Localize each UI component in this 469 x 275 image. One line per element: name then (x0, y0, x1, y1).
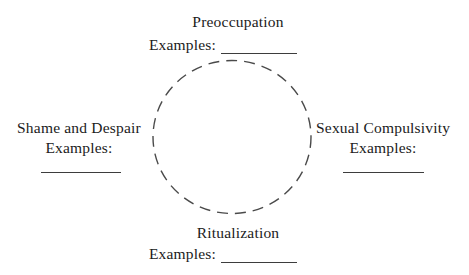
stage-label-preoccupation: Preoccupation (145, 13, 331, 30)
cycle-circle-outline (153, 61, 311, 214)
stage-label-ritualization: Ritualization (145, 224, 331, 241)
examples-blank-bottom (221, 261, 297, 263)
examples-blank-left (41, 172, 121, 173)
stage-label-shame-and-despair: Shame and Despair (12, 119, 146, 136)
stage-label-sexual-compulsivity: Sexual Compulsivity (316, 119, 450, 136)
examples-row-top: Examples: (130, 36, 316, 54)
examples-row-bottom: Examples: (130, 245, 316, 263)
cycle-diagram: Preoccupation Examples: Shame and Despai… (0, 0, 469, 275)
examples-blank-right (343, 172, 424, 173)
examples-label-right: Examples: (316, 139, 450, 156)
examples-label-left: Examples: (12, 139, 146, 156)
examples-label-bottom: Examples: (149, 245, 216, 262)
examples-label-top: Examples: (149, 36, 216, 53)
examples-blank-top (221, 52, 297, 54)
